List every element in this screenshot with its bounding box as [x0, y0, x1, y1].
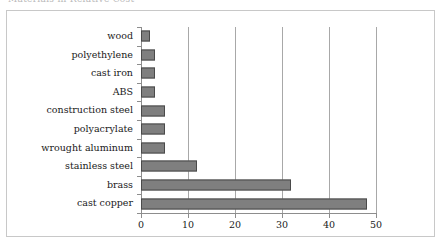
bar-cast-iron — [141, 68, 155, 79]
bar-row — [141, 120, 376, 139]
x-tick-50 — [376, 213, 377, 218]
x-tick-label-0: 0 — [138, 219, 144, 230]
gridline-50 — [376, 27, 377, 213]
bar-row — [141, 157, 376, 176]
plot-area — [141, 27, 376, 213]
bar-row — [141, 46, 376, 65]
x-axis-ticks — [141, 213, 377, 218]
bar-wrought-aluminum — [141, 142, 165, 153]
category-label-cast-copper: cast copper — [77, 194, 133, 213]
bar-row — [141, 101, 376, 120]
bar-series — [141, 27, 376, 213]
bar-row — [141, 176, 376, 195]
bar-wood — [141, 31, 150, 42]
bar-construction-steel — [141, 105, 165, 116]
x-tick-label-50: 50 — [370, 219, 382, 230]
bar-row — [141, 194, 376, 213]
category-label-construction-steel: construction steel — [46, 101, 133, 120]
category-label-polyacrylate: polyacrylate — [74, 120, 133, 139]
bar-row — [141, 83, 376, 102]
x-tick-label-20: 20 — [229, 219, 241, 230]
category-label-wood: wood — [107, 27, 133, 46]
x-axis-tick-labels: 01020304050 — [141, 219, 377, 233]
bar-polyacrylate — [141, 124, 165, 135]
category-label-ABS: ABS — [113, 83, 133, 102]
bar-brass — [141, 180, 291, 191]
x-tick-20 — [235, 213, 236, 218]
bar-stainless-steel — [141, 161, 197, 172]
bar-polyethylene — [141, 49, 155, 60]
category-label-stainless-steel: stainless steel — [65, 157, 133, 176]
category-label-brass: brass — [107, 176, 133, 195]
bar-cast-copper — [141, 198, 367, 209]
x-tick-10 — [188, 213, 189, 218]
category-label-wrought-aluminum: wrought aluminum — [41, 139, 133, 158]
x-tick-40 — [329, 213, 330, 218]
x-tick-label-30: 30 — [276, 219, 288, 230]
top-caption-fragment: Materials in Relative Cost — [8, 0, 208, 2]
x-tick-0 — [141, 213, 142, 218]
chart-page: Materials in Relative Cost woodpolyethyl… — [0, 0, 443, 244]
x-tick-label-10: 10 — [182, 219, 194, 230]
bar-row — [141, 139, 376, 158]
category-axis-labels: woodpolyethylenecast ironABSconstruction… — [14, 27, 137, 213]
bar-row — [141, 64, 376, 83]
bar-ABS — [141, 87, 155, 98]
bar-row — [141, 27, 376, 46]
x-tick-30 — [282, 213, 283, 218]
x-tick-label-40: 40 — [323, 219, 335, 230]
category-label-cast-iron: cast iron — [91, 64, 133, 83]
category-label-polyethylene: polyethylene — [71, 46, 133, 65]
